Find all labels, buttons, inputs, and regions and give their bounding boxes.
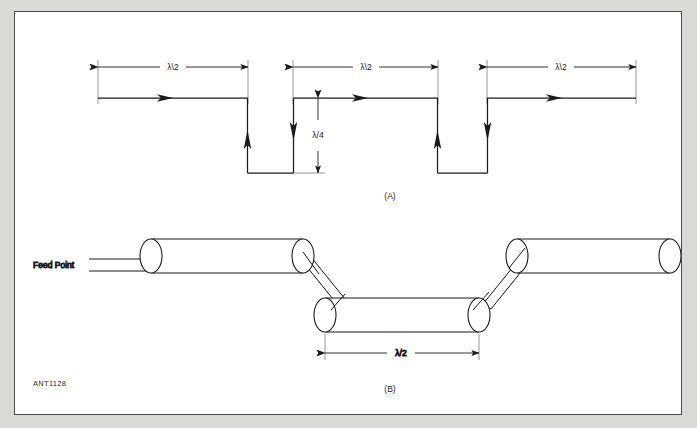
antenna-figure: λ\2 λ\2 λ\2 [15,12,681,414]
dimension-lambda-half-2: λ\2 [293,62,438,72]
panel-b: Feed Point [33,239,681,394]
dimension-lambda-half-3: λ\2 [487,62,636,72]
figure-page: λ\2 λ\2 λ\2 [14,11,682,415]
tube-left-body [151,239,303,273]
tube-center-body [325,298,479,332]
feed-point-label: Feed Point [33,260,75,270]
panel-a-conductor [98,98,636,173]
tube-center-element [314,298,490,332]
tube-right-body [517,239,670,273]
tube-left-cap-right [292,239,314,273]
dimension-lambda-quarter: λ/4 [293,98,325,173]
panel-a-vertical-arrows [244,122,491,149]
panel-label-b: (B) [384,384,396,394]
dimension-label-lambda-half-b: λ/2 [395,348,407,358]
panel-a: λ\2 λ\2 λ\2 [98,60,636,201]
dimension-lambda-half-1: λ\2 [98,62,248,72]
tube-center-cap-left [314,298,336,332]
tube-left-cap-left [140,239,162,273]
dimension-label-lambda-half-3: λ\2 [555,62,567,72]
dimension-label-lambda-half-1: λ\2 [167,62,179,72]
tube-right-element [506,239,681,273]
tube-left-element [140,239,314,273]
figure-code-label: ANT1128 [33,379,66,388]
dimension-label-lambda-half-2: λ\2 [360,62,372,72]
tube-right-cap-right [659,239,681,273]
panel-label-a: (A) [384,191,396,201]
dimension-lambda-half-panel-b: λ/2 [325,334,479,360]
dimension-label-lambda-quarter: λ/4 [312,130,324,140]
